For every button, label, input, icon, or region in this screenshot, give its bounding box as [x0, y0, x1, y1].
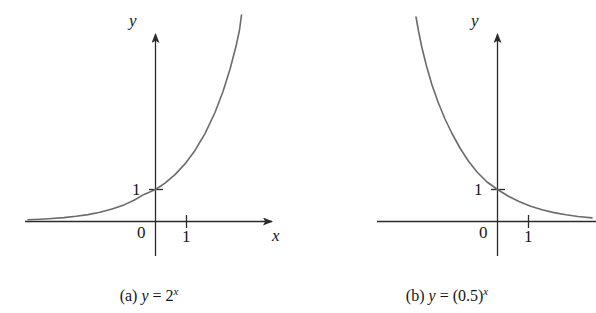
caption-a: (a) y = 2x	[0, 287, 298, 305]
caption-b-equals: =	[440, 287, 449, 304]
panel-b: y 0 1 1 (b) y = (0.5)x	[298, 0, 596, 313]
y-axis-label-b: y	[471, 12, 479, 29]
caption-a-base: 2	[166, 287, 174, 304]
caption-a-prefix: (a)	[120, 287, 138, 304]
plot-a-svg	[0, 0, 298, 313]
x-axis-label-a: x	[272, 227, 280, 244]
caption-b-lhs: y	[429, 287, 436, 304]
caption-a-lhs: y	[141, 287, 148, 304]
caption-b-exponent: x	[483, 285, 488, 297]
caption-a-equals: =	[153, 287, 162, 304]
caption-b-prefix: (b)	[406, 287, 425, 304]
y-tick-label-1-b: 1	[474, 181, 483, 198]
origin-label-b: 0	[479, 224, 488, 241]
caption-a-exponent: x	[174, 285, 179, 297]
caption-b: (b) y = (0.5)x	[298, 287, 596, 305]
caption-b-base: (0.5)	[453, 287, 484, 304]
panel-a: y x 0 1 1 (a) y = 2x	[0, 0, 298, 313]
x-tick-label-1-b: 1	[524, 228, 533, 245]
y-axis-label-a: y	[129, 12, 137, 29]
exponential-graphs-figure: y x 0 1 1 (a) y = 2x	[0, 0, 596, 313]
origin-label-a: 0	[137, 224, 146, 241]
curve-half-to-the-x	[416, 17, 592, 218]
y-tick-label-1-a: 1	[132, 181, 141, 198]
x-tick-label-1-a: 1	[182, 228, 191, 245]
plot-b-svg	[298, 0, 596, 313]
